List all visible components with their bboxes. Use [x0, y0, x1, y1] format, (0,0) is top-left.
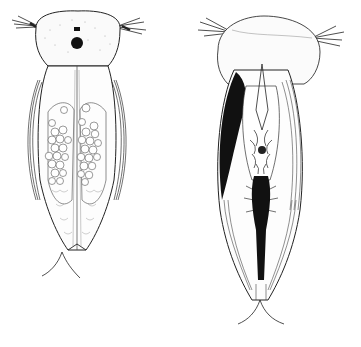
- compound-eye: [71, 37, 83, 49]
- ocellus: [74, 27, 80, 31]
- left-caudal-setae: [42, 252, 80, 278]
- right-caudal-setae: [238, 300, 284, 324]
- left-antenna-right: [118, 18, 146, 34]
- specimen-drawings: [0, 0, 361, 347]
- left-antenna-left: [12, 16, 36, 28]
- right-specimen: [198, 16, 344, 324]
- left-specimen: [12, 11, 146, 278]
- illustration-canvas: [0, 0, 361, 347]
